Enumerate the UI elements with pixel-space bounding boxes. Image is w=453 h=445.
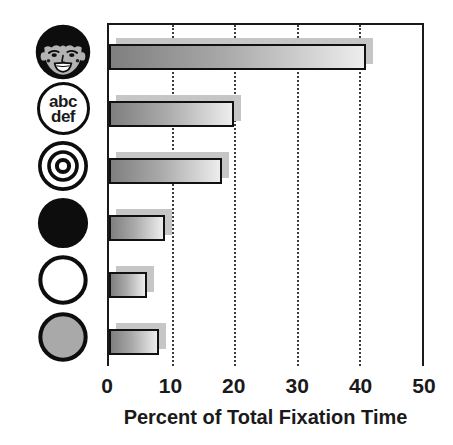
x-tick-label: 10 (159, 374, 182, 398)
category-row-face (33, 23, 93, 80)
text-abc-def-icon: abc def (37, 82, 90, 135)
black-circle-icon (36, 196, 90, 250)
fixation-bar (109, 215, 165, 241)
x-tick-label: 40 (349, 374, 372, 398)
fixation-bar (109, 158, 222, 184)
fixation-bar (109, 329, 159, 355)
eye-fixation-chart: abc def (0, 0, 453, 445)
category-icon-column: abc def (33, 23, 93, 365)
fixation-bar (109, 101, 234, 127)
category-row-black-circle (33, 194, 93, 251)
x-tick-label: 20 (222, 374, 245, 398)
bullseye-icon (36, 139, 90, 193)
x-axis-ticks: 01020304050 (107, 374, 424, 398)
text-icon-line2: def (51, 109, 75, 124)
x-tick-label: 30 (286, 374, 309, 398)
category-row-bullseye (33, 137, 93, 194)
white-circle-icon (36, 253, 90, 307)
plot-area (107, 23, 424, 366)
x-tick-label: 50 (412, 374, 435, 398)
category-row-gray-circle (33, 308, 93, 365)
face-icon (34, 23, 92, 81)
x-tick-label: 0 (101, 374, 113, 398)
gray-circle-icon (36, 310, 90, 364)
category-row-white-circle (33, 251, 93, 308)
fixation-bar (109, 44, 366, 70)
category-row-text: abc def (33, 80, 93, 137)
fixation-bar (109, 272, 147, 298)
bars (109, 25, 422, 366)
x-axis-title: Percent of Total Fixation Time (92, 406, 439, 429)
